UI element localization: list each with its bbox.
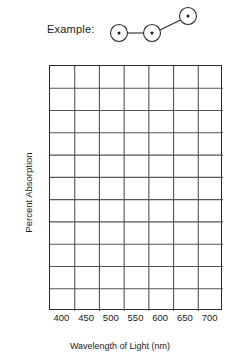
- example-marker-illustration: [0, 0, 240, 58]
- circled-point-icon: [144, 25, 161, 42]
- grid-lines: [50, 66, 223, 311]
- example-legend: Example:: [0, 0, 240, 58]
- x-axis-tick-label: 700: [193, 312, 227, 323]
- plot-grid[interactable]: [49, 65, 222, 310]
- x-axis-tick-labels: 400450500550600650700: [49, 312, 222, 326]
- x-axis-title: Wavelength of Light (nm): [0, 341, 240, 351]
- line-segment-icon: [159, 20, 182, 31]
- circled-point-icon: [111, 25, 128, 42]
- circled-point-icon: [180, 8, 197, 25]
- y-axis-title: Percent Absorption: [23, 123, 34, 263]
